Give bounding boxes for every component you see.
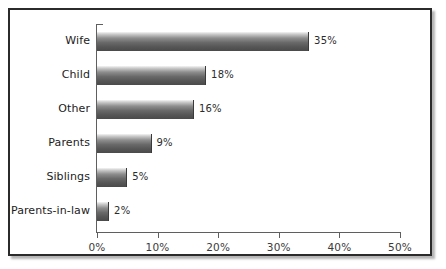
x-tick — [279, 232, 280, 238]
x-tick — [218, 232, 219, 238]
bar-row: Parents9% — [10, 134, 430, 153]
y-axis-top-tick — [96, 24, 103, 25]
plot-area: 0%10%20%30%40%50% Wife35%Child18%Other16… — [10, 10, 430, 254]
bar-value-label: 5% — [132, 171, 148, 182]
x-tick-label: 50% — [380, 241, 420, 253]
x-tick-label: 20% — [198, 241, 238, 253]
bar[interactable] — [97, 134, 152, 153]
category-label: Parents — [10, 136, 90, 149]
x-axis-line — [96, 232, 400, 233]
bar-value-label: 35% — [314, 35, 337, 46]
category-label: Parents-in-law — [10, 204, 90, 217]
bar-value-label: 2% — [114, 205, 130, 216]
bar[interactable] — [97, 168, 127, 187]
x-tick — [400, 232, 401, 238]
bar-row: Other16% — [10, 100, 430, 119]
x-tick — [97, 232, 98, 238]
bar[interactable] — [97, 202, 109, 221]
bar-row: Wife35% — [10, 32, 430, 51]
y-axis-line — [96, 24, 97, 232]
bar[interactable] — [97, 100, 194, 119]
category-label: Siblings — [10, 170, 90, 183]
chart-frame: 0%10%20%30%40%50% Wife35%Child18%Other16… — [8, 8, 432, 256]
x-tick-label: 10% — [138, 241, 178, 253]
x-tick — [158, 232, 159, 238]
bar[interactable] — [97, 66, 206, 85]
category-label: Other — [10, 102, 90, 115]
bar-value-label: 18% — [211, 69, 234, 80]
category-label: Wife — [10, 34, 90, 47]
x-tick — [339, 232, 340, 238]
bar[interactable] — [97, 32, 309, 51]
bar-value-label: 16% — [199, 103, 222, 114]
bar-row: Parents-in-law2% — [10, 202, 430, 221]
x-tick-label: 30% — [259, 241, 299, 253]
bar-row: Child18% — [10, 66, 430, 85]
category-label: Child — [10, 68, 90, 81]
bar-value-label: 9% — [157, 137, 173, 148]
bar-row: Siblings5% — [10, 168, 430, 187]
x-tick-label: 40% — [319, 241, 359, 253]
x-tick-label: 0% — [77, 241, 117, 253]
